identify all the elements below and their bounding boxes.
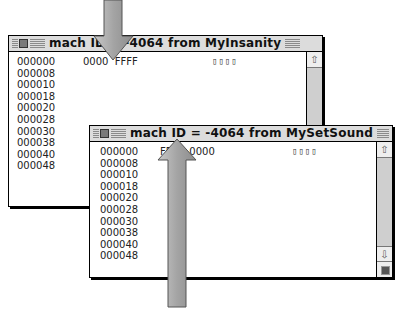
window-mysetsound[interactable]: mach ID = -4064 from MySetSound 000000 0… — [89, 125, 393, 278]
up-callout-arrow-icon — [156, 138, 198, 309]
address-row: 000018 — [100, 181, 138, 193]
close-box-icon[interactable] — [19, 39, 28, 48]
scroll-up-arrow-icon[interactable]: ⇧ — [377, 142, 392, 158]
address-row: 000010 — [17, 79, 55, 91]
title-stripes-left — [12, 39, 18, 48]
address-column: 000000 000008 000010 000018 000020 00002… — [17, 56, 55, 172]
address-row: 000038 — [100, 227, 138, 239]
address-row: 000030 — [100, 216, 138, 228]
address-row: 000008 — [17, 68, 55, 80]
address-row: 000008 — [100, 158, 138, 170]
address-row: 000040 — [17, 149, 55, 161]
address-row: 000030 — [17, 126, 55, 138]
vertical-scrollbar[interactable]: ⇧ ⇩ — [376, 142, 392, 277]
close-box-icon[interactable] — [100, 129, 109, 138]
title-bar[interactable]: mach ID = -4064 from MySetSound — [90, 126, 392, 142]
address-row: 000010 — [100, 169, 138, 181]
title-bar[interactable]: mach ID = -4064 from MyInsanity — [9, 36, 322, 52]
address-row: 000018 — [17, 91, 55, 103]
scroll-up-arrow-icon[interactable]: ⇧ — [307, 52, 322, 68]
address-row: 000020 — [17, 102, 55, 114]
address-row: 000028 — [17, 114, 55, 126]
address-column: 000000 000008 000010 000018 000020 00002… — [100, 146, 138, 262]
address-row: 000000 — [100, 146, 138, 158]
down-callout-arrow-icon — [93, 0, 135, 62]
address-row: 000020 — [100, 192, 138, 204]
window-title: mach ID = -4064 from MyInsanity — [45, 36, 285, 51]
address-row: 000038 — [17, 137, 55, 149]
scroll-down-arrow-icon[interactable]: ⇩ — [377, 246, 392, 262]
ascii-data: ▯▯▯▯ — [292, 146, 318, 156]
address-row: 000048 — [17, 160, 55, 172]
size-box-icon[interactable] — [377, 261, 392, 277]
address-row: 000000 — [17, 56, 55, 68]
address-row: 000028 — [100, 204, 138, 216]
address-row: 000040 — [100, 239, 138, 251]
address-row: 000048 — [100, 250, 138, 262]
ascii-data: ▯▯▯▯ — [212, 56, 238, 66]
hex-content: 000000 000008 000010 000018 000020 00002… — [90, 142, 376, 277]
title-stripes-left — [93, 129, 99, 138]
